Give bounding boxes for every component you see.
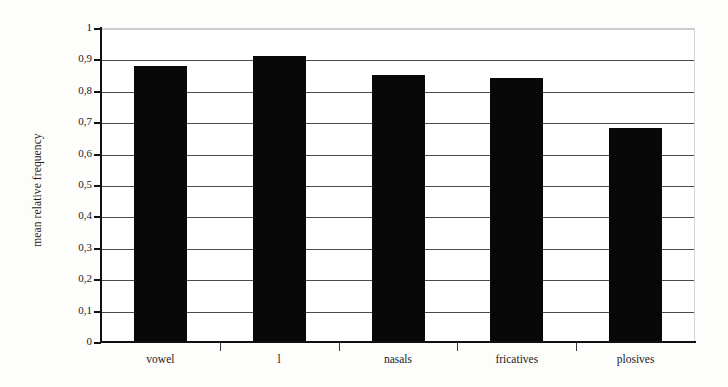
y-axis-tick-label: 1 <box>50 22 92 33</box>
bar-l <box>253 56 306 342</box>
bar-nasals <box>372 75 425 342</box>
gridline <box>101 60 694 61</box>
bar-fricatives <box>490 78 543 342</box>
y-axis-tick-labels: 00,10,20,30,40,50,60,70,80,91 <box>44 0 92 387</box>
gridline <box>101 29 694 30</box>
y-axis-tick-label: 0 <box>50 336 92 347</box>
y-axis-tick-mark <box>94 279 101 281</box>
y-axis-tick-label: 0,6 <box>50 148 92 159</box>
y-axis-tick-label: 0,7 <box>50 116 92 127</box>
y-axis-tick-mark <box>94 248 101 250</box>
y-axis-tick-mark <box>94 28 101 30</box>
x-axis-label-fricatives: fricatives <box>457 351 576 367</box>
y-axis-tick-mark <box>94 185 101 187</box>
y-axis-tick-label: 0,4 <box>50 210 92 221</box>
y-axis-tick-mark <box>94 122 101 124</box>
y-axis-tick-mark <box>94 91 101 93</box>
bar-vowel <box>134 66 187 342</box>
y-axis-tick-mark <box>94 216 101 218</box>
plot-area <box>101 28 695 342</box>
y-axis-tick-label: 0,8 <box>50 85 92 96</box>
y-axis-tick-mark <box>94 311 101 313</box>
y-axis-tick-label: 0,5 <box>50 179 92 190</box>
x-axis-tick-mark <box>220 343 221 351</box>
y-axis-tick-label: 0,3 <box>50 242 92 253</box>
y-axis-tick-label: 0,9 <box>50 53 92 64</box>
x-axis-label-l: l <box>220 351 339 367</box>
y-axis-tick-label: 0,1 <box>50 305 92 316</box>
y-axis-tick-mark <box>94 154 101 156</box>
bar-plosives <box>609 128 662 342</box>
y-axis-tick-mark <box>94 342 101 344</box>
x-axis-tick-mark <box>339 343 340 351</box>
bar-chart-figure: mean relative frequency 00,10,20,30,40,5… <box>0 0 728 387</box>
x-axis-tick-mark <box>576 343 577 351</box>
y-axis-tick-label: 0,2 <box>50 273 92 284</box>
x-axis-label-vowel: vowel <box>101 351 220 367</box>
y-axis-tick-mark <box>94 59 101 61</box>
x-axis-tick-mark <box>457 343 458 351</box>
x-axis-label-nasals: nasals <box>339 351 458 367</box>
x-axis-label-plosives: plosives <box>576 351 695 367</box>
x-axis-line <box>100 341 696 343</box>
